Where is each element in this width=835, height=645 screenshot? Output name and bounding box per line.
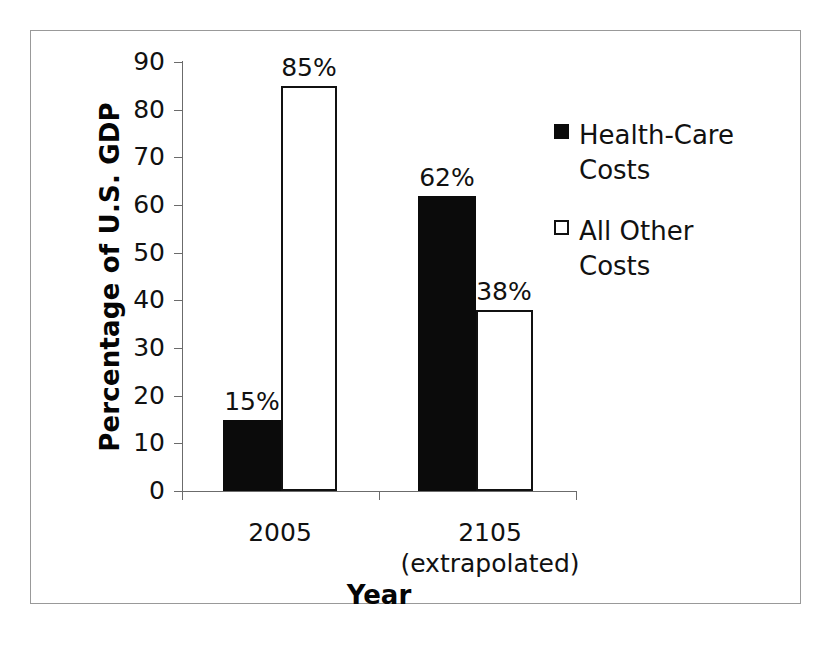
bar-health-care-2105[interactable] bbox=[418, 196, 476, 491]
legend-label-health-care: Health-Care Costs bbox=[579, 118, 804, 188]
y-axis-line bbox=[182, 61, 183, 492]
bar-all-other-2105[interactable] bbox=[476, 310, 533, 491]
x-axis-category-label-2105: 2105 (extrapolated) bbox=[395, 518, 585, 579]
bar-all-other-2005[interactable] bbox=[281, 86, 337, 491]
y-axis-tick-label: 0 bbox=[105, 478, 165, 503]
x-axis-tick bbox=[379, 491, 380, 500]
filled-square-marker-icon bbox=[554, 124, 569, 139]
y-axis-tick bbox=[174, 396, 183, 397]
y-axis-tick-label: 80 bbox=[105, 97, 165, 122]
y-axis-tick bbox=[174, 110, 183, 111]
bar-data-label-all-other-2005: 85% bbox=[269, 55, 349, 80]
x-axis-category-sub-2105: (extrapolated) bbox=[395, 548, 585, 579]
legend-label-all-other: All Other Costs bbox=[579, 214, 804, 284]
y-axis-tick-label: 30 bbox=[105, 335, 165, 360]
x-axis-category-label-2005: 2005 bbox=[220, 518, 340, 548]
y-axis-tick-label: 20 bbox=[105, 383, 165, 408]
x-axis-category-main-2005: 2005 bbox=[248, 518, 312, 547]
y-axis-tick bbox=[174, 205, 183, 206]
x-axis-tick bbox=[576, 491, 577, 500]
y-axis-tick bbox=[174, 157, 183, 158]
y-axis-tick bbox=[174, 348, 183, 349]
x-axis-tick bbox=[182, 491, 183, 500]
legend-item-health-care[interactable]: Health-Care Costs bbox=[554, 118, 804, 188]
bar-data-label-health-care-2105: 62% bbox=[407, 165, 487, 190]
y-axis-tick-label: 70 bbox=[105, 144, 165, 169]
y-axis-tick bbox=[174, 62, 183, 63]
y-axis-title: Percentage of U.S. GDP bbox=[95, 77, 125, 477]
bar-chart-plot-area: Percentage of U.S. GDP 0 10 20 30 40 50 … bbox=[0, 0, 835, 645]
y-axis-tick-label: 10 bbox=[105, 430, 165, 455]
y-axis-tick-label: 40 bbox=[105, 287, 165, 312]
bar-data-label-health-care-2005: 15% bbox=[212, 389, 292, 414]
figure: Percentage of U.S. GDP 0 10 20 30 40 50 … bbox=[0, 0, 835, 645]
legend-item-all-other[interactable]: All Other Costs bbox=[554, 214, 804, 284]
chart-legend: Health-Care Costs All Other Costs bbox=[554, 118, 804, 310]
y-axis-tick bbox=[174, 443, 183, 444]
hollow-square-marker-icon bbox=[554, 220, 569, 235]
bar-health-care-2005[interactable] bbox=[223, 420, 281, 491]
x-axis-title: Year bbox=[182, 580, 576, 610]
bar-data-label-all-other-2105: 38% bbox=[464, 279, 544, 304]
x-axis-category-main-2105: 2105 bbox=[458, 518, 522, 547]
y-axis-tick-label: 50 bbox=[105, 240, 165, 265]
y-axis-tick bbox=[174, 300, 183, 301]
y-axis-tick-label: 90 bbox=[105, 49, 165, 74]
y-axis-tick-label: 60 bbox=[105, 192, 165, 217]
y-axis-tick bbox=[174, 253, 183, 254]
